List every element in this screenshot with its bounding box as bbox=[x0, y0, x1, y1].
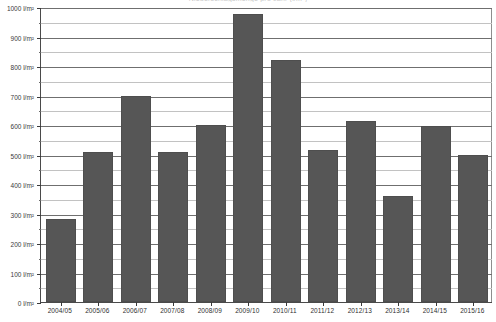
x-axis-tick-label: 2015/16 bbox=[460, 306, 484, 315]
x-axis-tick-label: 2014/15 bbox=[423, 306, 447, 315]
y-axis-tick-minor bbox=[39, 200, 41, 201]
y-axis-tick-label: 300 l/m² bbox=[11, 211, 34, 218]
bar bbox=[271, 60, 301, 302]
x-axis-tick-label: 2008/09 bbox=[198, 306, 222, 315]
x-axis-labels: 2004/052005/062006/072007/082008/092009/… bbox=[40, 306, 492, 322]
y-axis-tick-label: 700 l/m² bbox=[11, 93, 34, 100]
y-axis-tick-label: 400 l/m² bbox=[11, 182, 34, 189]
bar bbox=[383, 196, 413, 302]
y-axis-tick-label: 800 l/m² bbox=[11, 64, 34, 71]
y-axis-tick bbox=[37, 215, 41, 216]
y-axis-tick bbox=[37, 185, 41, 186]
y-axis-labels: 0 l/m²100 l/m²200 l/m²300 l/m²400 l/m²50… bbox=[0, 0, 38, 322]
bar bbox=[346, 121, 376, 302]
bar bbox=[196, 125, 226, 302]
y-axis-tick-minor bbox=[39, 23, 41, 24]
y-axis-tick-minor bbox=[39, 111, 41, 112]
y-axis-tick-label: 100 l/m² bbox=[11, 270, 34, 277]
plot-area bbox=[40, 8, 492, 303]
x-axis-tick-label: 2006/07 bbox=[123, 306, 147, 315]
x-axis-tick-label: 2007/08 bbox=[160, 306, 184, 315]
y-axis-tick-label: 1000 l/m² bbox=[7, 5, 34, 12]
bar bbox=[233, 14, 263, 302]
y-axis-tick-label: 500 l/m² bbox=[11, 152, 34, 159]
y-axis-tick-minor bbox=[39, 52, 41, 53]
x-axis-tick-label: 2012/13 bbox=[348, 306, 372, 315]
y-axis-tick bbox=[37, 97, 41, 98]
bar bbox=[158, 152, 188, 302]
x-axis-tick-label: 2011/12 bbox=[310, 306, 334, 315]
x-axis-tick-label: 2009/10 bbox=[235, 306, 259, 315]
x-axis-tick-label: 2004/05 bbox=[48, 306, 72, 315]
bar-series bbox=[42, 8, 491, 302]
y-axis-tick bbox=[37, 67, 41, 68]
x-axis-tick-label: 2005/06 bbox=[85, 306, 109, 315]
bar bbox=[308, 150, 338, 302]
y-axis-tick bbox=[37, 156, 41, 157]
bar bbox=[458, 155, 488, 303]
y-axis-tick-minor bbox=[39, 170, 41, 171]
y-axis-tick-label: 900 l/m² bbox=[11, 34, 34, 41]
chart-title: Niederschlagsmenge pro Jahr (l/m²) bbox=[0, 0, 496, 2]
y-axis-tick-label: 200 l/m² bbox=[11, 241, 34, 248]
y-axis-tick-minor bbox=[39, 259, 41, 260]
y-axis-tick-label: 0 l/m² bbox=[18, 300, 34, 307]
bar bbox=[83, 152, 113, 302]
y-axis-tick bbox=[37, 38, 41, 39]
x-axis-tick-label: 2013/14 bbox=[385, 306, 409, 315]
y-axis-tick bbox=[37, 303, 41, 304]
y-axis-tick-minor bbox=[39, 229, 41, 230]
y-axis-tick bbox=[37, 274, 41, 275]
bar bbox=[121, 96, 151, 303]
bar bbox=[46, 219, 76, 302]
y-axis-tick bbox=[37, 126, 41, 127]
y-axis-tick bbox=[37, 8, 41, 9]
y-axis-tick-label: 600 l/m² bbox=[11, 123, 34, 130]
x-axis-tick-label: 2010/11 bbox=[273, 306, 297, 315]
y-axis-tick-minor bbox=[39, 141, 41, 142]
bar-chart: Niederschlagsmenge pro Jahr (l/m²) 0 l/m… bbox=[0, 0, 496, 322]
y-axis-tick bbox=[37, 244, 41, 245]
bar bbox=[421, 126, 451, 302]
y-axis-tick-minor bbox=[39, 82, 41, 83]
y-axis-tick-minor bbox=[39, 288, 41, 289]
